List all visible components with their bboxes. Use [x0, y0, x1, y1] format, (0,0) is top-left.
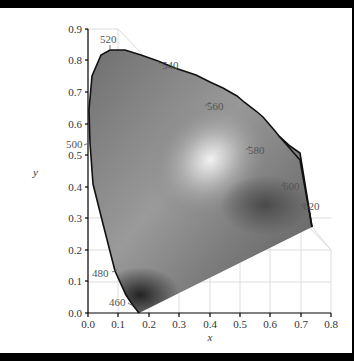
- svg-text:620: 620: [303, 200, 320, 212]
- svg-text:480: 480: [92, 267, 109, 279]
- y-axis-title: y: [32, 166, 38, 178]
- svg-text:0.6: 0.6: [68, 118, 82, 130]
- svg-text:0.1: 0.1: [111, 318, 125, 330]
- y-tick-labels: 0.0 0.1 0.2 0.3 0.4 0.5 0.6 0.7 0.8 0.9: [68, 23, 82, 319]
- svg-text:0.6: 0.6: [263, 318, 277, 330]
- svg-text:460: 460: [109, 296, 126, 308]
- svg-text:0.5: 0.5: [233, 318, 247, 330]
- svg-text:540: 540: [162, 59, 179, 71]
- x-axis-title: x: [207, 331, 213, 343]
- svg-text:580: 580: [248, 144, 265, 156]
- svg-text:0.7: 0.7: [294, 318, 308, 330]
- svg-text:0.9: 0.9: [68, 23, 82, 35]
- svg-text:0.4: 0.4: [68, 181, 82, 193]
- svg-text:0.2: 0.2: [68, 244, 82, 256]
- svg-text:500: 500: [66, 138, 83, 150]
- x-tick-labels: 0.0 0.1 0.2 0.3 0.4 0.5 0.6 0.7 0.8: [81, 318, 338, 330]
- chromaticity-diagram: 0.0 0.1 0.2 0.3 0.4 0.5 0.6 0.7 0.8 0.9 …: [0, 8, 352, 353]
- svg-text:560: 560: [207, 100, 224, 112]
- svg-text:600: 600: [283, 180, 300, 192]
- svg-text:0.4: 0.4: [203, 318, 217, 330]
- svg-text:0.2: 0.2: [142, 318, 156, 330]
- svg-text:0.8: 0.8: [324, 318, 338, 330]
- svg-text:0.1: 0.1: [68, 275, 82, 287]
- screenshot-frame: 0.0 0.1 0.2 0.3 0.4 0.5 0.6 0.7 0.8 0.9 …: [0, 0, 354, 361]
- svg-text:520: 520: [100, 33, 117, 45]
- svg-text:0.3: 0.3: [68, 212, 82, 224]
- svg-text:0.3: 0.3: [172, 318, 186, 330]
- diagram-canvas: 0.0 0.1 0.2 0.3 0.4 0.5 0.6 0.7 0.8 0.9 …: [0, 8, 352, 353]
- svg-text:0.8: 0.8: [68, 54, 82, 66]
- svg-text:0.0: 0.0: [81, 318, 95, 330]
- svg-text:0.7: 0.7: [68, 86, 82, 98]
- svg-text:0.5: 0.5: [68, 149, 82, 161]
